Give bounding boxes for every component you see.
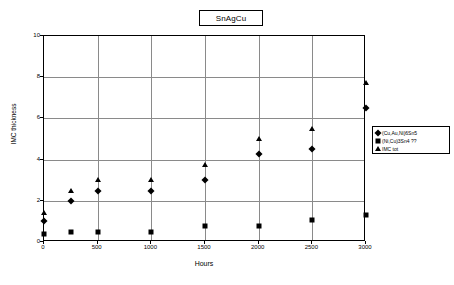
data-point <box>148 187 155 194</box>
chart-legend: (Cu,Au,Ni)6Sn5(Ni,Cu)3Sn4 ??IMC tot <box>372 126 450 154</box>
data-point <box>94 187 101 194</box>
data-point <box>364 213 369 218</box>
x-tick-label: 0 <box>23 244 63 251</box>
data-point <box>67 197 74 204</box>
chart-title-text: SnAgCu <box>216 14 246 23</box>
x-axis-title: Hours <box>43 259 365 268</box>
data-point <box>255 151 262 158</box>
data-point <box>149 229 154 234</box>
data-point <box>203 223 208 228</box>
x-tick-label: 500 <box>77 244 117 251</box>
legend-entry: IMC tot <box>375 145 448 153</box>
legend-label: IMC tot <box>382 146 398 152</box>
legend-marker-triangle-icon <box>375 145 382 153</box>
data-point <box>309 126 315 131</box>
gridline-horizontal <box>44 201 364 202</box>
y-tick-label: 10 <box>14 32 40 39</box>
data-point <box>41 210 47 215</box>
legend-label: (Ni,Cu)3Sn4 ?? <box>382 138 416 144</box>
gridline-vertical <box>205 36 206 240</box>
data-point <box>256 223 261 228</box>
legend-entry: (Ni,Cu)3Sn4 ?? <box>375 137 448 145</box>
gridline-horizontal <box>44 77 364 78</box>
legend-marker-square-icon <box>375 137 382 145</box>
gridline-vertical <box>151 36 152 240</box>
y-tick-label: 2 <box>14 196 40 203</box>
data-point <box>68 188 74 193</box>
x-axis-tick-labels: 050010001500200025003000 <box>43 244 365 254</box>
gridline-horizontal <box>44 118 364 119</box>
gridline-vertical <box>312 36 313 240</box>
x-tick-label: 1000 <box>130 244 170 251</box>
gridline-horizontal <box>44 160 364 161</box>
data-point <box>201 177 208 184</box>
data-point <box>95 229 100 234</box>
data-point <box>202 162 208 167</box>
y-axis-title: IMC thickness <box>10 74 18 174</box>
data-point <box>256 136 262 141</box>
chart-container: SnAgCu 0246810 050010001500200025003000 … <box>0 0 454 285</box>
data-point <box>309 146 316 153</box>
x-tick-label: 3000 <box>345 244 385 251</box>
data-point <box>42 231 47 236</box>
data-point <box>310 218 315 223</box>
data-point <box>148 177 154 182</box>
gridline-vertical <box>98 36 99 240</box>
legend-entry: (Cu,Au,Ni)6Sn5 <box>375 129 448 137</box>
legend-label: (Cu,Au,Ni)6Sn5 <box>382 130 417 136</box>
data-point <box>95 177 101 182</box>
x-tick-label: 2500 <box>291 244 331 251</box>
chart-title: SnAgCu <box>199 10 263 26</box>
data-point <box>68 229 73 234</box>
plot-area <box>43 35 365 241</box>
legend-marker-diamond-icon <box>375 129 382 137</box>
data-point <box>362 105 369 112</box>
x-tick-label: 1500 <box>184 244 224 251</box>
data-point <box>363 80 369 85</box>
x-tick-label: 2000 <box>238 244 278 251</box>
